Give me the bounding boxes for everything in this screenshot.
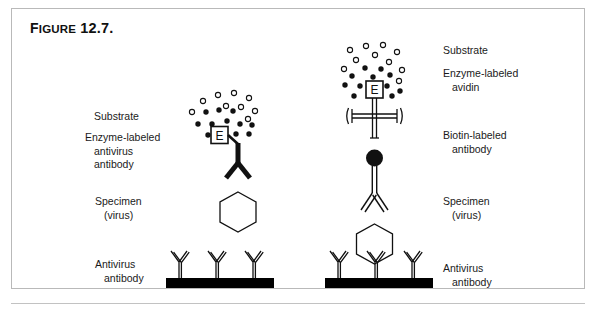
- right-solid-phase-row: [320, 248, 445, 293]
- page-divider-rule: [11, 303, 585, 304]
- right-capture-line1: Antivirus: [443, 262, 483, 274]
- left-specimen-line1: Specimen: [95, 195, 142, 207]
- left-substrate-molecules: [189, 90, 257, 121]
- left-enzyme-conjugate-line2: antivirus: [85, 145, 160, 159]
- figure-caption-number: 12.7.: [80, 20, 113, 36]
- right-specimen-line2: (virus): [443, 209, 490, 223]
- right-avidin-cross: [347, 98, 403, 138]
- left-enzyme-conjugate-line1: Enzyme-labeled: [85, 131, 160, 143]
- figure-caption: FIGURE12.7.: [30, 19, 113, 37]
- right-biotin-line2: antibody: [443, 143, 507, 157]
- right-capture-antibody-label: Antivirus antibody: [443, 262, 492, 289]
- right-avidin-label: Enzyme-labeled avidin: [443, 67, 518, 94]
- left-specimen-line2: (virus): [95, 209, 142, 223]
- figure-page: FIGURE12.7. Substrate Enzyme-labeled ant…: [0, 0, 596, 317]
- right-biotin-line1: Biotin-labeled: [443, 129, 507, 141]
- left-capture-antibodies: [171, 251, 263, 279]
- right-avidin-line2: avidin: [443, 81, 518, 95]
- left-solid-phase-bar: [166, 278, 274, 288]
- left-capture-line2: antibody: [95, 272, 144, 286]
- left-substrate-label: Substrate: [94, 110, 139, 124]
- figure-caption-word: FIGURE: [30, 23, 76, 35]
- left-enzyme-labeled-antibody: [226, 143, 250, 178]
- right-biotin-antibody-label: Biotin-labeled antibody: [443, 129, 507, 156]
- left-solid-phase-row: [166, 248, 286, 293]
- left-capture-line1: Antivirus: [95, 258, 135, 270]
- right-avidin-line1: Enzyme-labeled: [443, 67, 518, 79]
- left-specimen-label: Specimen (virus): [95, 195, 142, 222]
- right-specimen-line1: Specimen: [443, 195, 490, 207]
- left-enzyme-conjugate-label: Enzyme-labeled antivirus antibody: [85, 131, 160, 172]
- right-biotin-labeled-antibody: [361, 166, 388, 212]
- right-enzyme-letter: E: [370, 83, 378, 97]
- left-specimen-hexagon: [220, 192, 256, 232]
- right-enzyme-box: E: [366, 81, 383, 98]
- left-capture-antibody-label: Antivirus antibody: [95, 258, 144, 285]
- right-solid-phase-bar: [325, 278, 433, 288]
- right-biotin-marker: [366, 150, 383, 167]
- right-capture-antibodies: [330, 251, 422, 279]
- right-substrate-label: Substrate: [443, 44, 488, 58]
- left-enzyme-letter: E: [215, 129, 223, 143]
- right-specimen-label: Specimen (virus): [443, 195, 490, 222]
- right-capture-line2: antibody: [443, 276, 492, 290]
- left-enzyme-conjugate-line3: antibody: [85, 158, 160, 172]
